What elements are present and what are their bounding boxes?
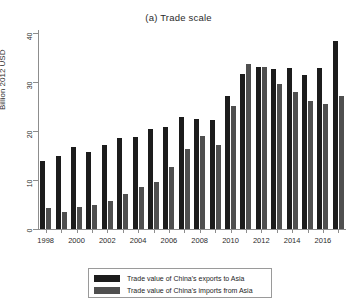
bar-imports-2010 [231, 106, 236, 229]
y-tick-label-wrap: 0 [0, 229, 30, 230]
bar-exports-2002 [102, 145, 107, 229]
bar-imports-2009 [216, 145, 221, 229]
bar-exports-2006 [163, 127, 168, 229]
legend-swatch-exports [94, 275, 120, 282]
bar-exports-2008 [194, 119, 199, 229]
y-tick-label-wrap: 10 [0, 180, 30, 181]
y-axis-label: Billion 2012 USD [0, 50, 7, 110]
x-tick-label-2012: 2012 [253, 236, 270, 245]
bar-exports-2017 [333, 41, 338, 229]
bar-imports-1998 [46, 208, 51, 229]
bar-imports-2017 [339, 96, 344, 229]
y-tick-label-40: 40 [27, 33, 34, 41]
bar-exports-2015 [302, 75, 307, 229]
bar-exports-2001 [86, 152, 91, 229]
chart-legend: Trade value of China's exports to AsiaTr… [88, 268, 272, 298]
figure-trade-scale: (a) Trade scale Billion 2012 USD 0102030… [0, 0, 357, 308]
bar-exports-1999 [56, 156, 61, 229]
bar-exports-2016 [317, 68, 322, 229]
x-tick-label-2004: 2004 [130, 236, 147, 245]
bar-imports-2013 [277, 84, 282, 229]
bar-exports-2000 [71, 147, 76, 229]
bar-imports-2002 [108, 201, 113, 229]
bar-exports-2012 [256, 67, 261, 229]
y-tick-label-20: 20 [27, 131, 34, 139]
x-tick-label-1998: 1998 [37, 236, 54, 245]
y-tick-label-10: 10 [27, 180, 34, 188]
legend-label-imports: Trade value of China's imports from Asia [127, 286, 253, 295]
bar-imports-2008 [200, 136, 205, 229]
bar-imports-2005 [154, 182, 159, 229]
chart-title: (a) Trade scale [0, 12, 357, 23]
bar-imports-2012 [262, 67, 267, 229]
x-tick-label-2000: 2000 [68, 236, 85, 245]
bar-imports-2015 [308, 101, 313, 229]
bar-exports-2013 [271, 69, 276, 229]
bar-imports-2006 [169, 167, 174, 229]
bar-exports-2009 [210, 120, 215, 229]
x-tick-label-2002: 2002 [99, 236, 116, 245]
bar-imports-2014 [293, 92, 298, 229]
bar-imports-2007 [185, 149, 190, 229]
y-tick-label-wrap: 30 [0, 82, 30, 83]
legend-label-exports: Trade value of China's exports to Asia [127, 274, 244, 283]
x-tick-label-2008: 2008 [191, 236, 208, 245]
x-tick-label-2010: 2010 [222, 236, 239, 245]
bar-exports-2014 [287, 68, 292, 229]
x-tick-label-2006: 2006 [161, 236, 178, 245]
legend-swatch-imports [94, 287, 120, 294]
bar-imports-2004 [139, 187, 144, 229]
bar-exports-2005 [148, 129, 153, 229]
bar-exports-1998 [40, 161, 45, 229]
legend-item-imports: Trade value of China's imports from Asia [94, 285, 266, 296]
legend-item-exports: Trade value of China's exports to Asia [94, 273, 266, 284]
x-tick-label-2016: 2016 [315, 236, 332, 245]
y-tick-label-30: 30 [27, 82, 34, 90]
bar-exports-2010 [225, 96, 230, 229]
bar-imports-2003 [123, 194, 128, 229]
bar-imports-2000 [77, 207, 82, 229]
bar-imports-2016 [323, 104, 328, 229]
x-tick-label-2014: 2014 [284, 236, 301, 245]
y-tick-label-0: 0 [27, 229, 34, 233]
bar-exports-2007 [179, 117, 184, 229]
bar-exports-2004 [133, 137, 138, 229]
y-tick-label-wrap: 20 [0, 131, 30, 132]
y-tick-label-wrap: 40 [0, 33, 30, 34]
bar-exports-2011 [240, 74, 245, 229]
bar-imports-1999 [62, 212, 67, 229]
bar-imports-2001 [92, 205, 97, 229]
plot-area [38, 30, 346, 232]
bar-exports-2003 [117, 138, 122, 229]
bar-imports-2011 [246, 64, 251, 229]
